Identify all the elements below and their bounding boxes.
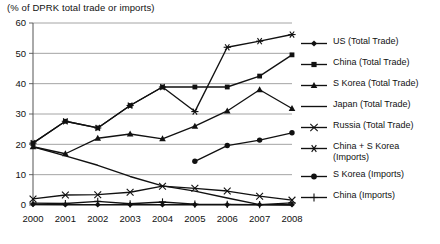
legend-item[interactable]: Japan (Total Trade) [300,99,440,120]
x-tick-label: 2006 [217,213,238,224]
chart-title: (% of DPRK total trade or imports) [7,2,155,13]
x-tick-label: 2003 [120,213,141,224]
marker-square [290,52,295,57]
legend-label: China + S Korea (Imports) [333,141,399,162]
legend-marker-circle-icon [300,170,328,183]
line-chart-svg: 0102030405060200020012002200320042005200… [0,16,305,230]
y-tick-label: 60 [15,17,26,28]
x-tick-label: 2005 [184,213,205,224]
legend-marker-asterisk-icon [300,142,328,155]
legend-label: S Korea (Total Trade) [333,78,419,89]
legend-label: China (Imports) [333,190,395,201]
legend-label: Japan (Total Trade) [333,99,411,110]
marker-circle [257,137,262,142]
legend-item[interactable]: S Korea (Imports) [300,169,440,190]
series-s-korea-imports [192,130,295,164]
y-tick-label: 20 [15,139,26,150]
y-tick-label: 40 [15,78,26,89]
series-line [33,186,292,200]
y-tick-label: 10 [15,169,26,180]
x-tick-label: 2002 [87,213,108,224]
y-tick-label: 50 [15,48,26,59]
x-tick-label: 2004 [152,213,173,224]
legend-label: China (Total Trade) [333,57,410,68]
legend-marker-none-icon [300,100,328,113]
legend-item[interactable]: China (Imports) [300,190,440,211]
marker-square [225,85,230,90]
legend-label: S Korea (Imports) [333,169,404,180]
legend-marker-triangle-icon [300,79,328,92]
marker-square [257,74,262,79]
series-china-total-trade [31,52,295,145]
x-tick-label: 2008 [281,213,302,224]
legend-label: Russia (Total Trade) [333,120,414,131]
plot-area: 0102030405060200020012002200320042005200… [0,16,305,230]
marker-square [311,62,316,67]
legend-marker-plus-icon [300,191,328,204]
legend-marker-x-icon [300,121,328,134]
x-axis-labels: 200020012002200320042005200620072008 [22,213,302,224]
y-tick-label: 30 [15,108,26,119]
legend-item[interactable]: China (Total Trade) [300,57,440,78]
chart-legend: US (Total Trade)China (Total Trade)S Kor… [300,36,440,211]
marker-triangle [127,131,134,137]
legend-item[interactable]: Russia (Total Trade) [300,120,440,141]
marker-circle [289,130,294,135]
x-tick-label: 2001 [55,213,76,224]
series-japan-total-trade [33,147,292,205]
marker-diamond [311,40,317,46]
x-tick-label: 2000 [22,213,43,224]
marker-triangle [289,105,296,111]
legend-item[interactable]: US (Total Trade) [300,36,440,57]
chart-page: (% of DPRK total trade or imports) 01020… [0,0,440,244]
y-gridlines: 0102030405060 [15,17,292,210]
legend-marker-diamond-icon [300,37,328,50]
series-line [195,133,292,162]
x-tick-label: 2007 [249,213,270,224]
marker-square [192,85,197,90]
marker-circle [225,143,230,148]
y-tick-label: 0 [21,199,26,210]
marker-triangle [256,86,263,92]
legend-item[interactable]: China + S Korea (Imports) [300,141,440,169]
marker-triangle [224,107,231,113]
legend-label: US (Total Trade) [333,36,399,47]
series-line [33,55,292,143]
series-s-korea-total-trade [30,86,296,156]
legend-item[interactable]: S Korea (Total Trade) [300,78,440,99]
legend-marker-square-icon [300,58,328,71]
marker-circle [192,159,197,164]
marker-circle [311,174,317,180]
series-line [33,147,292,205]
